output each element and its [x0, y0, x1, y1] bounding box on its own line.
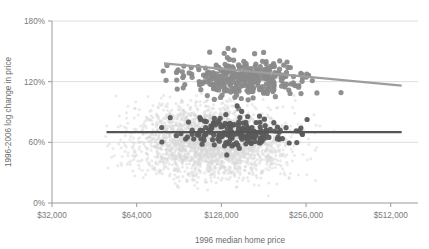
data-point [196, 108, 199, 111]
data-point [211, 162, 214, 165]
data-point [164, 117, 167, 120]
data-point [152, 137, 155, 140]
data-point [241, 120, 246, 125]
data-point [234, 140, 239, 145]
data-point [269, 108, 272, 111]
data-point [245, 77, 250, 82]
data-point [156, 142, 159, 145]
data-point [212, 103, 215, 106]
data-point [137, 138, 140, 141]
data-point [229, 150, 232, 153]
data-point [191, 136, 196, 141]
data-point [134, 100, 137, 103]
data-point [200, 92, 203, 95]
data-point [297, 122, 300, 125]
data-point [217, 171, 220, 174]
data-point [252, 135, 257, 140]
data-point [127, 105, 130, 108]
data-point [210, 156, 213, 159]
data-point [156, 152, 159, 155]
data-point [222, 117, 225, 120]
data-point [181, 85, 186, 90]
data-point [116, 164, 119, 167]
data-point [214, 167, 217, 170]
x-tick-label: $64,000 [122, 211, 152, 220]
data-point [169, 147, 172, 150]
data-point [189, 106, 192, 109]
scatter-chart: 0%60%120%180% $32,000$64,000$128,000$256… [0, 0, 429, 249]
data-point [218, 157, 221, 160]
data-point [138, 148, 141, 151]
data-point [168, 133, 171, 136]
data-point [246, 97, 251, 102]
data-point [132, 137, 135, 140]
y-tick-label: 120% [24, 78, 45, 87]
data-point [234, 114, 237, 117]
data-point [285, 153, 288, 156]
data-point [211, 172, 214, 175]
data-point [207, 108, 210, 111]
data-point [158, 160, 161, 163]
data-point [167, 120, 170, 123]
data-point [237, 157, 240, 160]
data-point [193, 121, 196, 124]
data-point [194, 113, 197, 116]
data-point [202, 147, 205, 150]
data-point [244, 88, 249, 93]
data-point [193, 118, 196, 121]
data-point [133, 175, 136, 178]
data-point [314, 179, 317, 182]
data-point [154, 133, 157, 136]
data-point [221, 101, 224, 104]
data-point [287, 140, 292, 145]
data-point [200, 152, 203, 155]
data-point [170, 123, 173, 126]
data-point [169, 111, 172, 114]
data-point [119, 124, 122, 127]
data-point [187, 153, 190, 156]
data-point [171, 163, 174, 166]
data-point [245, 161, 248, 164]
data-point [197, 81, 202, 86]
data-point [159, 125, 164, 130]
data-point [151, 116, 154, 119]
data-point [203, 101, 206, 104]
data-point [227, 172, 230, 175]
data-point [249, 156, 252, 159]
data-point [243, 169, 246, 172]
data-point [119, 139, 122, 142]
data-point [113, 154, 116, 157]
data-point [276, 183, 279, 186]
data-point [223, 141, 228, 146]
data-point [233, 153, 236, 156]
data-point [260, 170, 263, 173]
data-point [270, 116, 273, 119]
data-point [307, 143, 310, 146]
data-point [166, 149, 169, 152]
data-point [236, 180, 239, 183]
data-point [271, 120, 276, 125]
data-point [282, 105, 285, 108]
data-point [172, 178, 175, 181]
data-point [276, 144, 279, 147]
data-point [205, 181, 208, 184]
data-point [169, 172, 172, 175]
data-point [272, 147, 275, 150]
data-point [319, 125, 322, 128]
data-point [236, 168, 239, 171]
data-point [206, 166, 209, 169]
data-point [197, 176, 200, 179]
data-point [180, 124, 183, 127]
data-point [139, 124, 142, 127]
data-point [164, 144, 167, 147]
data-point [145, 119, 148, 122]
data-point [312, 113, 315, 116]
data-point [314, 90, 319, 95]
data-point [252, 167, 255, 170]
data-point [306, 159, 309, 162]
data-point [185, 135, 190, 140]
data-point [225, 177, 228, 180]
data-point [204, 114, 207, 117]
data-point [151, 165, 154, 168]
data-point [108, 143, 111, 146]
